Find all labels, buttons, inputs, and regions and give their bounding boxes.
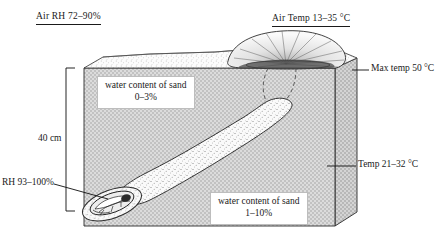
label-max-temp: Max temp 50 °C	[371, 63, 434, 73]
water-lower-line-2: 1–10%	[245, 208, 272, 218]
water-upper-line-1: water content of sand	[105, 80, 187, 90]
water-lower-line-1: water content of sand	[218, 196, 300, 206]
label-air-rh: Air RH 72–90%	[36, 11, 101, 25]
water-upper-line-2: 0–3%	[135, 92, 157, 102]
label-burrow-rh: RH 93–100%	[2, 177, 54, 187]
label-mid-temp: Temp 21–32 °C	[358, 159, 418, 169]
label-depth: 40 cm	[38, 133, 61, 143]
label-water-content-upper: water content of sand 0–3%	[97, 76, 195, 109]
burrow-entrance-mound	[228, 31, 346, 70]
block-side-face	[335, 58, 357, 226]
figure-canvas: Air RH 72–90% Air Temp 13–35 °C Max temp…	[0, 0, 446, 249]
label-water-content-lower: water content of sand 1–10%	[210, 192, 308, 225]
label-air-temp: Air Temp 13–35 °C	[272, 13, 350, 27]
